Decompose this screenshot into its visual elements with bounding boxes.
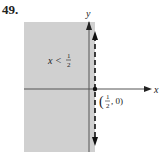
point-open-paren: (: [99, 94, 104, 110]
point-frac-num: 1: [106, 93, 110, 101]
region-frac-den: 2: [67, 61, 71, 69]
region-label: x <: [47, 55, 62, 66]
intercept-point: [93, 87, 97, 91]
x-axis-arrow-icon: [144, 86, 152, 92]
x-axis-label: x: [153, 84, 159, 95]
shaded-region: [24, 22, 95, 152]
inequality-graph: x y x < 1 2 ( 1 2 , 0): [0, 0, 160, 152]
region-frac-num: 1: [67, 52, 71, 60]
y-axis-label: y: [85, 8, 91, 19]
point-frac-den: 2: [106, 102, 110, 110]
point-close: , 0): [111, 96, 123, 106]
